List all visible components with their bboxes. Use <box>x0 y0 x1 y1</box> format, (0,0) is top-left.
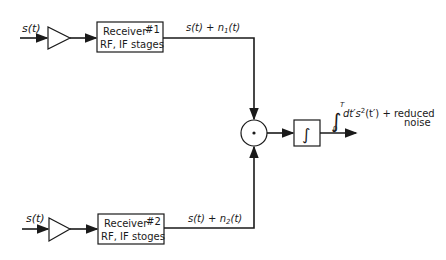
channel-1-output-wire <box>163 38 254 119</box>
multiplier-dot-icon <box>252 131 255 134</box>
channel-1-receiver-title: Receiver <box>103 26 147 37</box>
channel-2-output-label: s(t) + n2(t) <box>188 213 242 226</box>
channel-1-receiver-number: #1 <box>145 24 160 35</box>
multiplier <box>241 120 293 146</box>
channel-2-receiver-title: Receiver <box>104 218 148 229</box>
integrator: ∫ <box>294 120 356 146</box>
channel-1-receiver-stages: RF, IF stages <box>100 39 164 50</box>
channel-1-amplifier-icon <box>48 27 70 49</box>
channel-2: s(t) Receiver #2 RF, IF stoges s(t) + n2… <box>22 147 254 244</box>
channel-1-output-label: s(t) + n1(t) <box>186 22 240 35</box>
output-expression: ∫ T 0 dt′s2(t′) + reduced noise <box>331 101 435 133</box>
channel-2-receiver-number: #2 <box>146 216 161 227</box>
integral-icon: ∫ <box>302 125 310 144</box>
output-integral-lower-limit: 0 <box>333 125 337 133</box>
channel-2-input-label: s(t) <box>26 212 45 225</box>
channel-2-receiver-stages: RF, IF stoges <box>101 231 165 242</box>
channel-1-input-label: s(t) <box>22 22 41 35</box>
channel-1: s(t) Receiver #1 RF, IF stages s(t) + n1… <box>20 22 254 119</box>
channel-2-amplifier-icon <box>49 218 70 241</box>
output-expression-line2: noise <box>404 117 431 128</box>
correlation-receiver-diagram: s(t) Receiver #1 RF, IF stages s(t) + n1… <box>0 0 446 260</box>
